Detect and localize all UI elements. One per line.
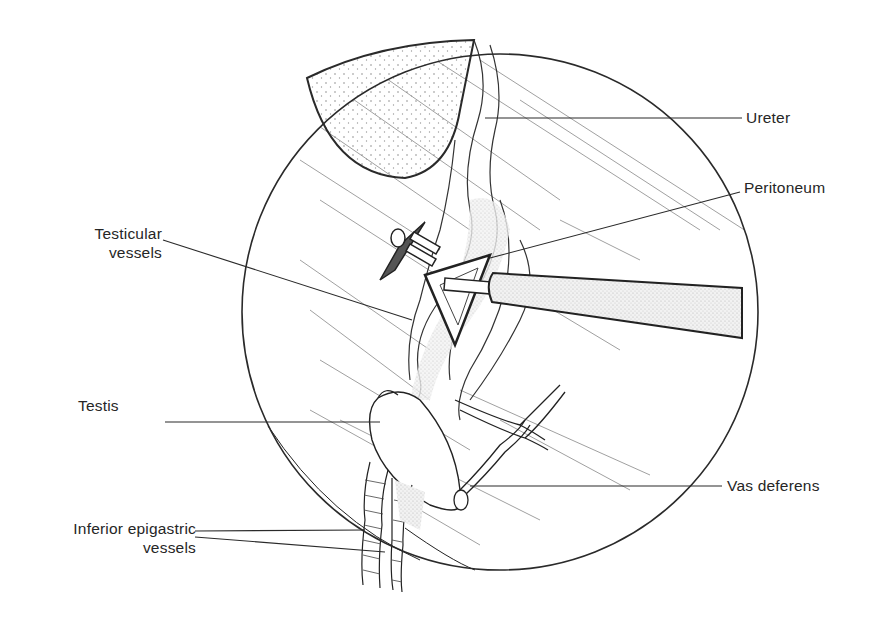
- leader-epigastric-1: [195, 530, 365, 531]
- vas-deferens-shape: [460, 420, 525, 490]
- label-inferior-epigastric-vessels: Inferior epigastric vessels: [30, 519, 196, 557]
- label-peritoneum: Peritoneum: [744, 178, 825, 197]
- label-epigastric-line2: vessels: [30, 538, 196, 557]
- leader-epigastric-2: [195, 537, 385, 552]
- leader-peritoneum: [490, 192, 740, 258]
- label-testicular-vessels-line2: vessels: [38, 243, 162, 262]
- label-epigastric-line1: Inferior epigastric: [30, 519, 196, 538]
- grasping-instrument: [444, 273, 742, 338]
- bladder-shape: [307, 40, 474, 178]
- leader-testicular-vessels: [163, 240, 412, 320]
- label-ureter: Ureter: [746, 108, 790, 127]
- label-vas-deferens: Vas deferens: [727, 476, 820, 495]
- label-testicular-vessels-line1: Testicular: [38, 224, 162, 243]
- label-testis: Testis: [78, 396, 119, 415]
- label-testicular-vessels: Testicular vessels: [38, 224, 162, 262]
